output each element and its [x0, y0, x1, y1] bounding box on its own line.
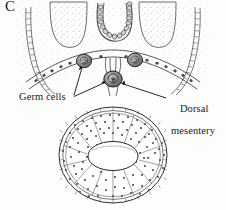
gut-lumen: [88, 142, 138, 171]
gut-tube: [59, 107, 167, 203]
dorsal-mesentery-label-line2: mesentery: [171, 125, 215, 136]
germ-cells-leader-b: [74, 83, 105, 97]
germ-cell-right: [127, 53, 142, 67]
germ-cells-label: Germ cells: [19, 91, 66, 102]
dorsal-mesentery-leader: [122, 84, 166, 99]
dorsal-mesentery-label-line1: Dorsal: [180, 103, 209, 114]
dorsal-mesentery-label: Dorsal mesentery: [169, 92, 215, 158]
germ-cell-mesentery: [104, 71, 122, 87]
panel-letter: C: [5, 1, 15, 12]
germ-cell-left: [76, 54, 91, 68]
figure-panel-c: C Germ cells Dorsal mesentery: [0, 0, 226, 210]
